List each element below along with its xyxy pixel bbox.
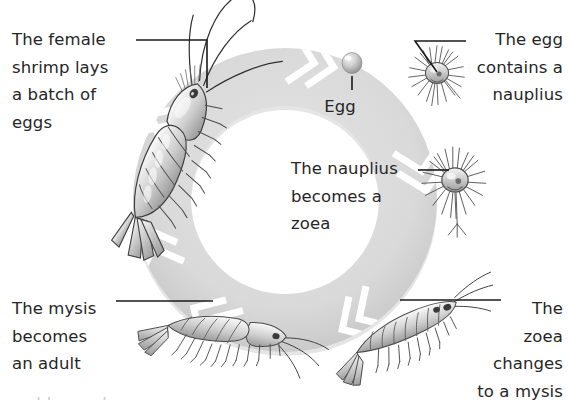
label-female-shrimp: The female shrimp lays a batch of eggs [12,26,182,136]
clipped-caption-row: clipped caption line [0,397,568,410]
label-egg: Egg [310,93,370,121]
label-nauplius-becomes-zoea: The nauplius becomes a zoea [291,155,431,238]
clipped-caption-text: clipped caption line [18,397,179,401]
label-mysis-becomes-adult: The mysis becomes an adult [12,295,172,378]
label-egg-contains-nauplius: The egg contains a nauplius [403,26,563,109]
label-zoea-changes-to-mysis: The zoea changes to a mysis [453,295,563,405]
